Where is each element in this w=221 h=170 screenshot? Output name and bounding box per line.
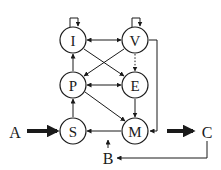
- node-M-label: M: [128, 124, 141, 140]
- node-E-label: E: [130, 78, 139, 94]
- node-I: I: [60, 27, 86, 53]
- external-B-label: B: [103, 150, 114, 167]
- external-A-label: A: [9, 124, 21, 141]
- diagram-svg: I V P E S M A B C: [0, 0, 221, 170]
- diagram-canvas: I V P E S M A B C: [0, 0, 221, 170]
- node-I-label: I: [71, 33, 76, 49]
- node-S: S: [60, 118, 86, 144]
- node-P-label: P: [69, 78, 77, 94]
- edge-I-self-loop: [70, 18, 78, 27]
- node-V-label: V: [130, 33, 141, 49]
- edge-V-M-elbow: [149, 40, 157, 131]
- edge-P-M: [85, 92, 125, 121]
- edge-V-self-loop: [132, 18, 140, 27]
- node-S-label: S: [69, 124, 77, 140]
- node-P: P: [60, 72, 86, 98]
- external-C-label: C: [202, 124, 213, 141]
- node-M: M: [122, 118, 148, 144]
- node-E: E: [122, 72, 148, 98]
- node-V: V: [122, 27, 148, 53]
